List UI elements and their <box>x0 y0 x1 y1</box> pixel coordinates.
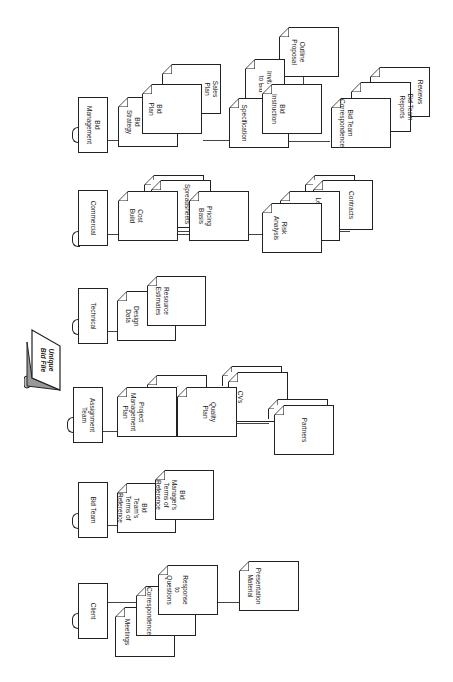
connector <box>102 431 118 432</box>
document-bid-instruction[interactable]: Bid Instruction <box>262 84 322 134</box>
category-folder-commercial[interactable]: Commercial <box>78 190 108 246</box>
document-bid-plan[interactable]: Bid Plan <box>142 84 202 134</box>
document-presentation-material[interactable]: Presentation Material <box>239 561 299 611</box>
connector <box>217 602 239 603</box>
category-folder-client[interactable]: Client <box>78 583 108 639</box>
connector <box>288 141 330 142</box>
document-pricing-basis[interactable]: Pricing Basis <box>189 191 249 241</box>
document-response-to-questions[interactable]: Response to Questions <box>158 565 218 615</box>
unique-bid-file-label: Unique Bid File <box>39 348 55 373</box>
category-folder-technical[interactable]: Technical <box>78 288 108 344</box>
document-resource-estimates[interactable]: Resource Estimates <box>147 276 206 326</box>
document-partners[interactable]: Partners <box>274 405 334 455</box>
connector <box>248 234 262 235</box>
category-label: Bid Management <box>85 106 101 144</box>
document-project-management-plan[interactable]: Project Management Plan <box>117 387 177 437</box>
connector <box>176 234 190 235</box>
document-outline-proposal[interactable]: Outline Proposal <box>279 27 339 77</box>
category-folder-bid-team[interactable]: Bid Team <box>78 482 108 538</box>
category-folder-bid-management[interactable]: Bid Management <box>78 97 108 153</box>
document-risk-analysis[interactable]: Risk Analysis <box>262 203 322 253</box>
connector <box>176 231 190 232</box>
document-cost-build[interactable]: Cost Build <box>118 191 178 241</box>
category-folder-assignment-team[interactable]: Assignment Team <box>73 387 103 443</box>
document-quality-plan[interactable]: Quality Plan <box>177 387 237 437</box>
connector <box>237 423 269 424</box>
document-bid-team-correspondence[interactable]: Bid Team Correspondence <box>331 98 391 148</box>
document-bid-managers-terms-of-reference[interactable]: Bid Manager's Terms of Reference <box>155 470 214 520</box>
connector <box>107 602 137 603</box>
unique-bid-file-icon[interactable]: Unique Bid File <box>24 328 64 396</box>
